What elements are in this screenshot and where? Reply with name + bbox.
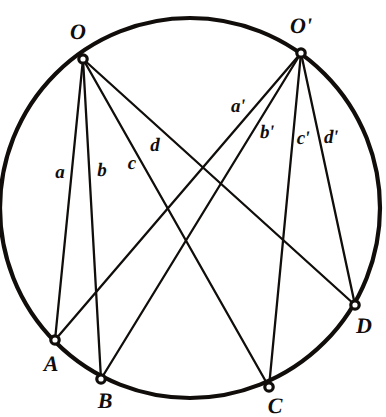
vertex-marker-B <box>97 375 105 383</box>
vertex-marker-Op <box>297 49 305 57</box>
chord-b-label: b <box>97 161 107 180</box>
chord-d-line <box>83 59 355 305</box>
vertex-markers-group <box>51 49 359 391</box>
vertex-label-Op: O' <box>290 15 312 37</box>
vertex-label-B: B <box>98 390 113 412</box>
chord-a-label: a <box>55 163 65 182</box>
chord-ap-line <box>55 53 301 340</box>
vertex-marker-A <box>51 336 59 344</box>
chord-c-label: c <box>128 154 136 173</box>
vertex-marker-C <box>265 383 273 391</box>
geometry-figure: OO'ABCDabcda'b'c'd' <box>0 0 386 417</box>
vertex-label-C: C <box>268 395 283 417</box>
vertex-label-A: A <box>44 353 59 375</box>
chord-d-label: d <box>150 136 160 155</box>
chord-dp-label: d' <box>324 128 338 147</box>
chord-cp-label: c' <box>297 129 310 148</box>
vertex-marker-O <box>79 55 87 63</box>
vertex-label-O: O <box>70 21 86 43</box>
chords-group <box>55 53 355 387</box>
chord-a-line <box>55 59 83 340</box>
chord-cp-line <box>269 53 301 387</box>
vertex-marker-D <box>351 301 359 309</box>
chord-bp-label: b' <box>260 123 274 142</box>
chord-dp-line <box>301 53 355 305</box>
vertex-label-D: D <box>356 315 372 337</box>
chord-ap-label: a' <box>231 97 245 116</box>
chord-b-line <box>83 59 101 379</box>
